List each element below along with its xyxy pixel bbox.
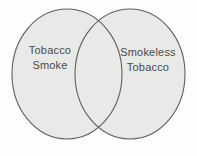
left-set-label: Tobacco Smoke: [10, 43, 90, 73]
left-set-label-line1: Tobacco: [10, 43, 90, 58]
right-set-label-line2: Tobacco: [108, 60, 188, 75]
right-set-label: Smokeless Tobacco: [108, 45, 188, 75]
left-set-label-line2: Smoke: [10, 58, 90, 73]
venn-diagram: Tobacco Smoke Smokeless Tobacco: [0, 0, 197, 156]
right-set-label-line1: Smokeless: [108, 45, 188, 60]
venn-diagram-canvas: [0, 0, 197, 156]
